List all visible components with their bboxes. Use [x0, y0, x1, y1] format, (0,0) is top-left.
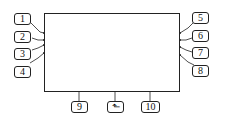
callout-9: 9 — [71, 101, 88, 113]
callout-6: 6 — [192, 30, 209, 42]
callout-5: 5 — [192, 12, 209, 24]
callout-8: 8 — [192, 65, 209, 77]
callout-3: 3 — [14, 48, 31, 60]
callout-7: 7 — [192, 47, 209, 59]
callout-2: 2 — [14, 31, 31, 43]
return-icon: ⬑ — [112, 101, 120, 112]
callout-4: 4 — [14, 66, 31, 78]
callout-10: 10 — [141, 101, 160, 113]
callout-1: 1 — [14, 13, 31, 25]
callout-return: ⬑ — [107, 101, 124, 113]
device-outline — [45, 14, 180, 92]
